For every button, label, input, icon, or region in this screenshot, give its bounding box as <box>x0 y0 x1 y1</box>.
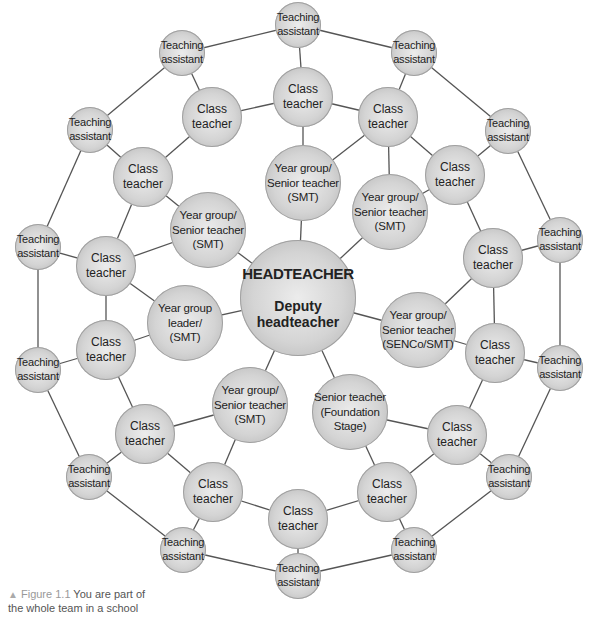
node-label: Year group/ Senior teacher (SENCo/SMT) <box>382 308 454 351</box>
class-teacher-node: Class teacher <box>113 147 173 207</box>
node-label: Class teacher <box>367 477 407 507</box>
figure-label: Figure 1.1 <box>21 588 71 600</box>
senior-teacher-node: Year group leader/ (SMT) <box>147 285 223 361</box>
class-teacher-node: Class teacher <box>268 489 328 549</box>
hub-title: HEADTEACHER <box>242 265 354 284</box>
class-teacher-node: Class teacher <box>182 87 242 147</box>
class-teacher-node: Class teacher <box>425 145 485 205</box>
node-label: Teaching assistant <box>277 11 319 39</box>
node-label: Class teacher <box>278 504 318 534</box>
teaching-assistant-node: Teaching assistant <box>485 108 531 154</box>
figure-caption: ▲ Figure 1.1 You are part of the whole t… <box>8 587 148 616</box>
teaching-assistant-node: Teaching assistant <box>537 217 583 263</box>
class-teacher-node: Class teacher <box>357 462 417 522</box>
senior-teacher-node: Year group/ Senior teacher (SMT) <box>352 174 428 250</box>
class-teacher-node: Class teacher <box>76 320 136 380</box>
node-label: Year group/ Senior teacher (SMT) <box>214 383 286 426</box>
teaching-assistant-node: Teaching assistant <box>275 2 321 48</box>
class-teacher-node: Class teacher <box>183 462 243 522</box>
node-label: Class teacher <box>125 419 165 449</box>
node-label: Class teacher <box>368 102 408 132</box>
node-label: Class teacher <box>473 243 513 273</box>
class-teacher-node: Class teacher <box>465 323 525 383</box>
teaching-assistant-node: Teaching assistant <box>275 553 321 599</box>
teaching-assistant-node: Teaching assistant <box>15 224 61 270</box>
node-label: Teaching assistant <box>277 562 319 590</box>
node-label: Teaching assistant <box>393 39 435 67</box>
teaching-assistant-node: Teaching assistant <box>391 30 437 76</box>
teaching-assistant-node: Teaching assistant <box>486 454 532 500</box>
senior-teacher-node: Year group/ Senior teacher (SENCo/SMT) <box>380 292 456 368</box>
class-teacher-node: Class teacher <box>358 87 418 147</box>
teaching-assistant-node: Teaching assistant <box>67 107 113 153</box>
class-teacher-node: Class teacher <box>463 228 523 288</box>
node-label: Year group/ Senior teacher (SMT) <box>172 208 244 251</box>
class-teacher-node: Class teacher <box>427 405 487 465</box>
node-label: Year group leader/ (SMT) <box>158 301 212 344</box>
node-label: Teaching assistant <box>487 117 529 145</box>
node-label: Teaching assistant <box>488 463 530 491</box>
node-label: Class teacher <box>86 335 126 365</box>
node-label: Class teacher <box>435 160 475 190</box>
node-label: Teaching assistant <box>393 536 435 564</box>
senior-teacher-node: Year group/ Senior teacher (SMT) <box>265 145 341 221</box>
teaching-assistant-node: Teaching assistant <box>537 345 583 391</box>
class-teacher-node: Class teacher <box>76 236 136 296</box>
senior-teacher-node: Year group/ Senior teacher (SMT) <box>170 192 246 268</box>
teaching-assistant-node: Teaching assistant <box>15 347 61 393</box>
class-teacher-node: Class teacher <box>115 404 175 464</box>
node-label: Teaching assistant <box>69 116 111 144</box>
node-label: Class teacher <box>192 102 232 132</box>
node-label: Teaching assistant <box>68 463 110 491</box>
node-label: Class teacher <box>437 420 477 450</box>
node-label: Year group/ Senior teacher (SMT) <box>354 190 426 233</box>
headteacher-hub-node: HEADTEACHERDeputy headteacher <box>240 240 356 356</box>
node-label: Teaching assistant <box>539 226 581 254</box>
node-label: Teaching assistant <box>539 354 581 382</box>
node-label: Teaching assistant <box>161 39 203 67</box>
teaching-assistant-node: Teaching assistant <box>160 527 206 573</box>
teaching-assistant-node: Teaching assistant <box>159 30 205 76</box>
hub-subtitle: Deputy headteacher <box>257 298 339 332</box>
teaching-assistant-node: Teaching assistant <box>66 454 112 500</box>
class-teacher-node: Class teacher <box>273 67 333 127</box>
node-label: Teaching assistant <box>162 536 204 564</box>
node-label: Class teacher <box>123 162 163 192</box>
teaching-assistant-node: Teaching assistant <box>391 527 437 573</box>
node-label: Teaching assistant <box>17 233 59 261</box>
triangle-up-icon: ▲ <box>8 589 18 600</box>
node-label: Year group/ Senior teacher (SMT) <box>267 161 339 204</box>
node-label: Class teacher <box>86 251 126 281</box>
node-label: Class teacher <box>475 338 515 368</box>
node-label: Class teacher <box>283 82 323 112</box>
node-label: Teaching assistant <box>17 356 59 384</box>
node-label: Class teacher <box>193 477 233 507</box>
senior-teacher-node: Senior teacher (Foundation Stage) <box>312 374 388 450</box>
node-label: Senior teacher (Foundation Stage) <box>314 390 386 433</box>
senior-teacher-node: Year group/ Senior teacher (SMT) <box>212 367 288 443</box>
